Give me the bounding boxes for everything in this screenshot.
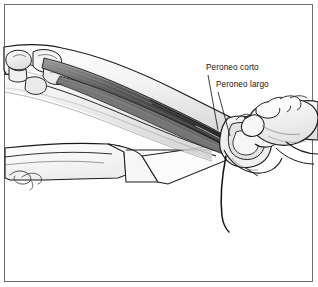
anatomical-figure: Peroneo corto Peroneo largo: [0, 0, 318, 287]
label-peroneo-largo: Peroneo largo: [216, 80, 269, 89]
tendon-graft-strand: [221, 156, 229, 232]
label-peroneo-corto: Peroneo corto: [206, 63, 259, 72]
illustration-canvas: [0, 0, 318, 287]
